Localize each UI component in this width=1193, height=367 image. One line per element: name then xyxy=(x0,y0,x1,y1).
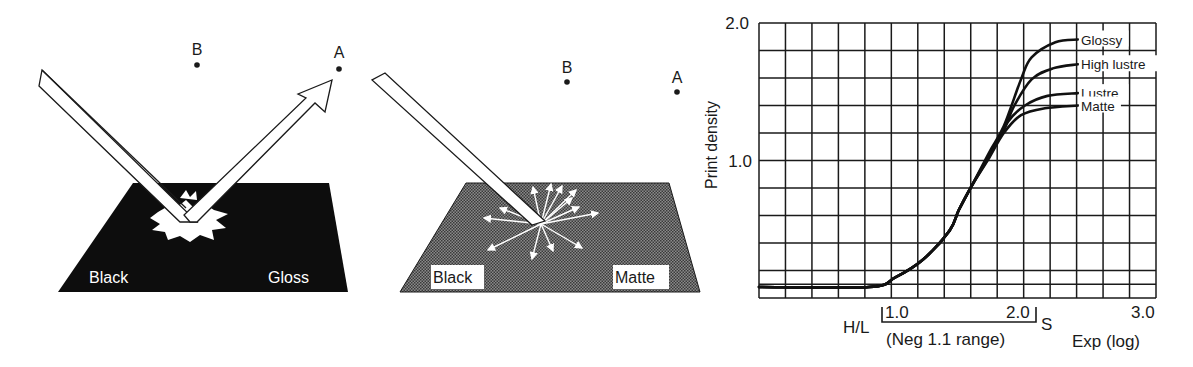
neg-range-label: (Neg 1.1 range) xyxy=(886,330,1005,349)
point-a-label: A xyxy=(334,44,345,61)
x-tick-3: 3.0 xyxy=(1131,303,1155,322)
hl-label: H/L xyxy=(843,318,869,337)
y-tick-1: 1.0 xyxy=(728,152,752,171)
y-axis-label: Print density xyxy=(703,101,720,189)
point-b-label: B xyxy=(562,59,573,76)
point-a-label: A xyxy=(672,69,683,86)
point-b-label: B xyxy=(192,41,203,58)
incident-beam xyxy=(39,70,197,222)
series-label-glossy: Glossy xyxy=(1081,33,1123,48)
point-b-dot xyxy=(194,62,200,68)
surface-label-black: Black xyxy=(433,269,473,286)
point-a-dot xyxy=(674,89,680,95)
x-tick-2: 2.0 xyxy=(1006,303,1030,322)
y-tick-2: 2.0 xyxy=(725,14,749,33)
density-chart: GlossyHigh lustreLustreMatte 2.0 1.0 Pri… xyxy=(690,0,1193,367)
series-labels: GlossyHigh lustreLustreMatte xyxy=(1079,31,1167,114)
x-axis-label: Exp (log) xyxy=(1072,332,1140,351)
series-label-high-lustre: High lustre xyxy=(1081,57,1146,72)
series-label-matte: Matte xyxy=(1081,99,1115,114)
surface-label-black: Black xyxy=(89,269,129,286)
matte-illustration: B A Black Matte xyxy=(360,0,710,367)
point-a-dot xyxy=(336,66,342,72)
point-b-dot xyxy=(564,79,570,85)
surface-label-gloss: Gloss xyxy=(268,269,309,286)
x-tick-1: 1.0 xyxy=(885,303,909,322)
gloss-illustration: B A Black Gloss xyxy=(0,0,360,367)
surface-label-matte: Matte xyxy=(615,269,655,286)
s-label: S xyxy=(1041,315,1052,334)
